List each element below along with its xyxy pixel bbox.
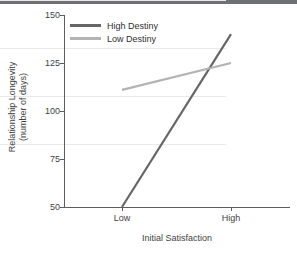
legend-label-low-destiny: Low Destiny xyxy=(107,34,156,44)
legend-item-high-destiny: High Destiny xyxy=(70,19,158,32)
legend-label-high-destiny: High Destiny xyxy=(107,21,158,31)
legend-swatch-high-destiny xyxy=(70,24,101,27)
series-line-low-destiny xyxy=(122,63,231,90)
legend-swatch-low-destiny xyxy=(70,37,101,40)
chart-figure: 150 125 100 75 50 Low High Initial Satis… xyxy=(0,0,297,254)
chart-legend: High Destiny Low Destiny xyxy=(70,19,158,45)
legend-item-low-destiny: Low Destiny xyxy=(70,32,158,45)
series-line-high-destiny xyxy=(122,34,231,207)
